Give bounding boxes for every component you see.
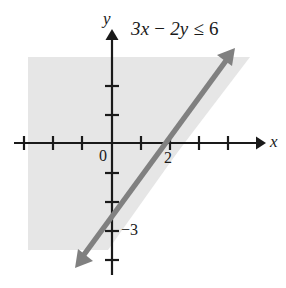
y-axis-arrowhead <box>106 29 119 40</box>
x-axis-label: x <box>270 133 278 150</box>
origin-label: 0 <box>99 148 107 164</box>
inequality-label: 3x − 2y ≤ 6 <box>131 19 219 38</box>
x-axis-arrowhead <box>256 137 266 150</box>
x-intercept-label: 2 <box>164 150 172 166</box>
graph-canvas <box>0 0 286 288</box>
shaded-half-plane-trim <box>28 57 250 250</box>
inequality-constant: 6 <box>209 18 219 39</box>
shaded-region-group <box>28 57 250 250</box>
y-axis-label: y <box>103 10 111 27</box>
inequality-graph-figure: y x 0 2 −3 3x − 2y ≤ 6 <box>0 0 286 288</box>
inequality-term-x: 3x <box>131 18 149 39</box>
inequality-term-y: 2y <box>170 18 188 39</box>
y-intercept-label: −3 <box>121 222 138 238</box>
inequality-relation-sign: ≤ <box>193 18 204 39</box>
inequality-minus-sign: − <box>154 18 165 39</box>
